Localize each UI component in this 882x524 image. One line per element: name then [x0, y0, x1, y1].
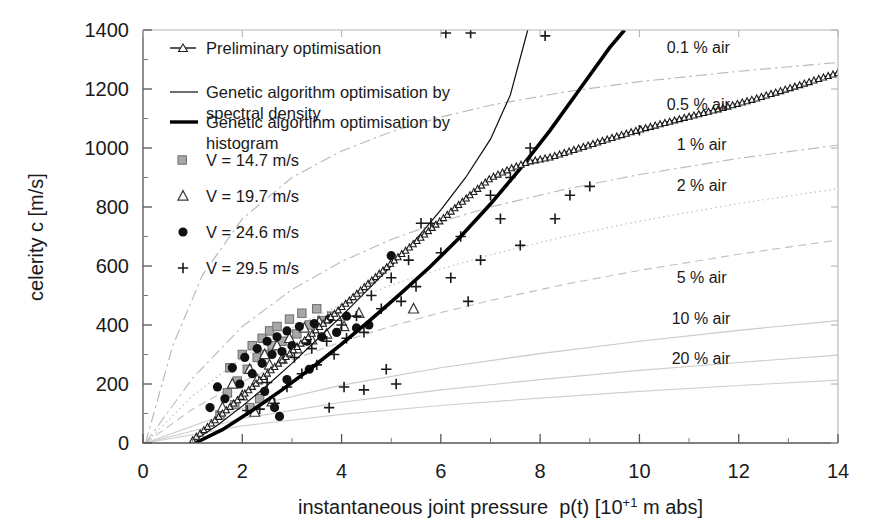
data-point [550, 214, 560, 224]
data-point [495, 214, 505, 224]
legend-label-0: Preliminary optimisation [206, 39, 381, 58]
x-axis-title-main: instantaneous joint pressure p(t) [10 [298, 496, 623, 518]
x-tick-label: 12 [728, 460, 750, 483]
air-label-4: 5 % air [677, 269, 727, 287]
data-point [366, 290, 376, 300]
y-axis-title: celerity c [m/s] [25, 173, 48, 301]
data-point [381, 364, 391, 374]
y-tick-label: 600 [96, 255, 129, 278]
data-point [317, 332, 326, 341]
data-point [228, 363, 237, 372]
air-label-2: 1 % air [677, 136, 727, 154]
y-tick-label: 0 [118, 432, 129, 455]
data-point [258, 359, 267, 368]
data-point [253, 344, 262, 353]
air-label-3: 2 % air [677, 177, 727, 195]
x-axis-title-exponent: +1 [623, 495, 638, 510]
data-point [441, 28, 451, 38]
y-tick-label: 200 [96, 373, 129, 396]
x-tick-label: 4 [336, 460, 347, 483]
data-point [267, 350, 276, 359]
data-point [565, 190, 575, 200]
x-tick-label: 10 [628, 460, 650, 483]
x-tick-label: 6 [435, 460, 446, 483]
data-point [342, 312, 351, 321]
x-axis-title: instantaneous joint pressure p(t) [10+1 … [298, 495, 703, 520]
data-point [339, 321, 349, 331]
data-point [332, 328, 341, 337]
data-point [465, 28, 475, 38]
data-point [540, 31, 550, 41]
data-point [409, 303, 419, 313]
y-tick-label: 400 [96, 314, 129, 337]
data-point [298, 309, 306, 317]
data-point [313, 305, 321, 313]
legend-marker-square-3 [178, 156, 186, 164]
air-label-0: 0.1 % air [667, 39, 730, 57]
data-point [295, 322, 304, 331]
data-point [248, 369, 257, 378]
legend-label-2: Genetic algortihm optimisation by [206, 113, 450, 132]
data-point [285, 315, 293, 323]
data-point [416, 218, 426, 228]
air-label-6: 20 % air [672, 350, 731, 368]
air-label-5: 10 % air [672, 310, 731, 328]
x-axis-title-tail: m abs] [637, 496, 703, 518]
legend-label-5: V = 24.6 m/s [206, 223, 299, 242]
data-point [475, 255, 485, 265]
data-point [240, 353, 249, 362]
data-point [235, 379, 244, 388]
legend-marker-circle-5 [178, 227, 187, 236]
y-tick-label: 1200 [85, 78, 130, 101]
data-point [386, 273, 396, 283]
y-tick-label: 1000 [85, 137, 130, 160]
legend-label-6: V = 29.5 m/s [206, 259, 299, 278]
legend-marker-triangle-4 [178, 191, 188, 201]
data-point [446, 273, 456, 283]
data-point [213, 382, 222, 391]
data-point [391, 379, 401, 389]
data-point [220, 394, 229, 403]
x-tick-label: 0 [137, 460, 148, 483]
legend-label-4: V = 19.7 m/s [206, 187, 299, 206]
figure-canvas: 020040060080010001200140002468101214cele… [0, 0, 882, 524]
data-point [273, 322, 281, 330]
data-point [585, 181, 595, 191]
data-point [282, 326, 291, 335]
y-tick-label: 1400 [85, 19, 130, 42]
legend-marker-plus-6 [178, 263, 188, 273]
x-tick-label: 2 [237, 460, 248, 483]
air-label-1: 0.5 % air [667, 96, 730, 114]
data-point [275, 412, 284, 421]
legend-label-1: Genetic algorithm optimisation by [206, 83, 450, 102]
data-point [339, 382, 349, 392]
legend-label-3: V = 14.7 m/s [206, 151, 299, 170]
data-point [263, 337, 272, 346]
data-point [272, 332, 281, 341]
data-point [515, 240, 525, 250]
y-tick-label: 800 [96, 196, 129, 219]
data-point [359, 385, 369, 395]
chart-svg [0, 0, 882, 524]
x-tick-label: 8 [535, 460, 546, 483]
data-point [205, 403, 214, 412]
x-tick-label: 14 [827, 460, 849, 483]
